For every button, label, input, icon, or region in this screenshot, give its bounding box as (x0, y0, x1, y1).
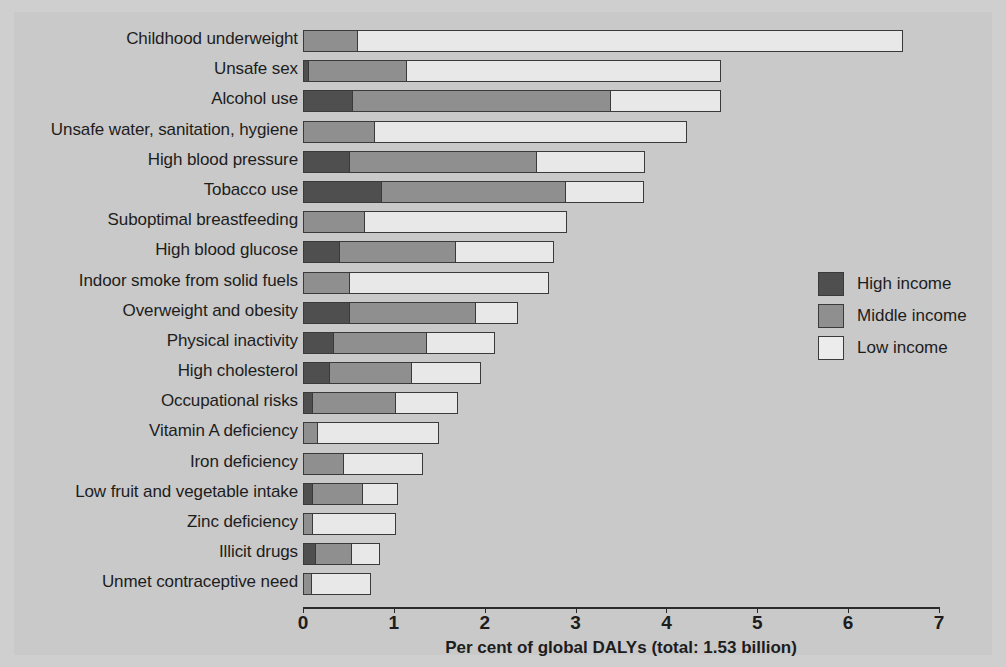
stacked-bar[interactable] (303, 272, 550, 294)
stacked-bar[interactable] (303, 90, 723, 112)
legend: High incomeMiddle incomeLow income (818, 268, 967, 364)
x-tick-label: 4 (646, 612, 686, 634)
bar-segment-middle-income[interactable] (339, 241, 456, 263)
bar-segment-low-income[interactable] (406, 60, 720, 82)
x-tick-label: 2 (465, 612, 505, 634)
bar-segment-middle-income[interactable] (349, 302, 476, 324)
bar-segment-middle-income[interactable] (381, 181, 566, 203)
bar-segment-middle-income[interactable] (352, 90, 611, 112)
category-label: Unsafe water, sanitation, hygiene (18, 115, 298, 145)
stacked-bar[interactable] (303, 121, 688, 143)
stacked-bar[interactable] (303, 211, 568, 233)
bar-segment-low-income[interactable] (455, 241, 553, 263)
bar-segment-low-income[interactable] (311, 573, 371, 595)
bar-row (303, 207, 939, 237)
bar-segment-low-income[interactable] (343, 453, 423, 475)
bar-segment-low-income[interactable] (362, 483, 398, 505)
category-label: Zinc deficiency (18, 507, 298, 537)
category-label: Iron deficiency (18, 447, 298, 477)
stacked-bar[interactable] (303, 181, 646, 203)
bar-segment-middle-income[interactable] (303, 453, 344, 475)
stacked-bar[interactable] (303, 362, 483, 384)
bar-row (303, 147, 939, 177)
bar-segment-middle-income[interactable] (315, 543, 352, 565)
legend-item[interactable]: High income (818, 268, 967, 300)
legend-swatch-low-income (818, 336, 844, 360)
bar-segment-high-income[interactable] (303, 90, 353, 112)
bar-segment-low-income[interactable] (374, 121, 687, 143)
category-label: Vitamin A deficiency (18, 416, 298, 446)
bar-segment-middle-income[interactable] (308, 60, 407, 82)
category-label: Physical inactivity (18, 326, 298, 356)
stacked-bar[interactable] (303, 60, 723, 82)
bar-segment-low-income[interactable] (475, 302, 518, 324)
stacked-bar[interactable] (303, 573, 372, 595)
bar-segment-middle-income[interactable] (303, 121, 375, 143)
legend-label: Low income (857, 338, 948, 358)
bar-segment-low-income[interactable] (312, 513, 396, 535)
bar-segment-low-income[interactable] (357, 30, 904, 52)
stacked-bar[interactable] (303, 332, 497, 354)
bar-segment-low-income[interactable] (565, 181, 643, 203)
legend-item[interactable]: Middle income (818, 300, 967, 332)
bar-segment-middle-income[interactable] (349, 151, 537, 173)
stacked-bar[interactable] (303, 453, 424, 475)
bar-segment-low-income[interactable] (364, 211, 568, 233)
stacked-bar[interactable] (303, 483, 400, 505)
bar-segment-middle-income[interactable] (333, 332, 427, 354)
stacked-bar[interactable] (303, 543, 382, 565)
bar-row (303, 56, 939, 86)
bar-segment-low-income[interactable] (610, 90, 721, 112)
bar-segment-middle-income[interactable] (312, 483, 363, 505)
bar-segment-high-income[interactable] (303, 181, 382, 203)
stacked-bar[interactable] (303, 513, 397, 535)
category-label: Low fruit and vegetable intake (18, 477, 298, 507)
category-label: High blood glucose (18, 235, 298, 265)
bar-segment-high-income[interactable] (303, 302, 350, 324)
category-label: High cholesterol (18, 356, 298, 386)
bar-segment-middle-income[interactable] (329, 362, 412, 384)
category-label: Unmet contraceptive need (18, 567, 298, 597)
bar-row (303, 117, 939, 147)
bar-segment-middle-income[interactable] (312, 392, 396, 414)
bar-row (303, 479, 939, 509)
bar-segment-high-income[interactable] (303, 241, 340, 263)
stacked-bar[interactable] (303, 392, 460, 414)
stacked-bar[interactable] (303, 30, 904, 52)
bar-segment-high-income[interactable] (303, 151, 350, 173)
bar-segment-low-income[interactable] (351, 543, 380, 565)
legend-label: Middle income (857, 306, 967, 326)
category-label: Occupational risks (18, 386, 298, 416)
x-tick-label: 3 (556, 612, 596, 634)
bar-row (303, 26, 939, 56)
x-tick-label: 1 (374, 612, 414, 634)
bar-segment-low-income[interactable] (349, 272, 549, 294)
bar-segment-middle-income[interactable] (303, 272, 350, 294)
bar-segment-middle-income[interactable] (303, 30, 358, 52)
category-label: Indoor smoke from solid fuels (18, 266, 298, 296)
stacked-bar[interactable] (303, 241, 556, 263)
bar-segment-middle-income[interactable] (303, 422, 318, 444)
bar-segment-middle-income[interactable] (303, 211, 365, 233)
category-label: Illicit drugs (18, 537, 298, 567)
bar-segment-low-income[interactable] (536, 151, 645, 173)
bar-segment-low-income[interactable] (395, 392, 458, 414)
stacked-bar-chart: Childhood underweightUnsafe sexAlcohol u… (0, 0, 1006, 667)
category-label: Overweight and obesity (18, 296, 298, 326)
bar-segment-low-income[interactable] (317, 422, 440, 444)
stacked-bar[interactable] (303, 302, 520, 324)
legend-swatch-middle-income (818, 304, 844, 328)
stacked-bar[interactable] (303, 422, 440, 444)
bar-row (303, 86, 939, 116)
bar-segment-low-income[interactable] (411, 362, 481, 384)
legend-item[interactable]: Low income (818, 332, 967, 364)
stacked-bar[interactable] (303, 151, 647, 173)
bar-segment-high-income[interactable] (303, 362, 330, 384)
bar-row (303, 509, 939, 539)
category-label: High blood pressure (18, 145, 298, 175)
bar-segment-low-income[interactable] (426, 332, 495, 354)
x-tick-label: 7 (919, 612, 959, 634)
bar-segment-high-income[interactable] (303, 332, 334, 354)
bar-row (303, 418, 939, 448)
x-tick-label: 6 (828, 612, 868, 634)
